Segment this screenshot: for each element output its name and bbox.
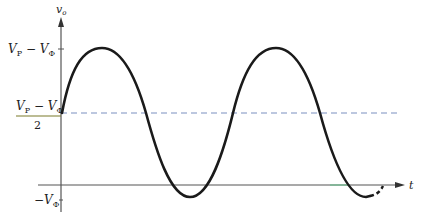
y-axis-label: vo — [56, 3, 66, 17]
t-axis-arrow-icon — [395, 182, 405, 188]
label-mid-numerator: VP − VΦ — [16, 99, 63, 115]
t-axis-label: t — [409, 179, 414, 192]
label-mid-denominator: 2 — [34, 119, 41, 132]
waveform-continuation-dashed — [370, 186, 383, 196]
label-neg-vphi: −VΦ — [34, 193, 60, 209]
waveform-curve — [62, 48, 370, 197]
waveform-diagram: vo t VP − VΦ VP − VΦ 2 −VΦ — [0, 0, 424, 220]
y-axis-arrow-icon — [58, 17, 64, 27]
label-vp-minus-vphi: VP − VΦ — [8, 42, 55, 58]
